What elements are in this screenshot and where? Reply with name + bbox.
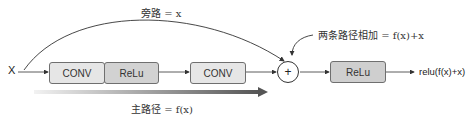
- skip-path-label: 旁路 = x: [141, 5, 181, 20]
- relu-block-2-label: ReLu: [346, 67, 370, 78]
- conv-block-2-label: CONV: [204, 68, 233, 79]
- relu-block-1: ReLu: [104, 62, 159, 84]
- conv-block-1-label: CONV: [63, 68, 92, 79]
- sum-callout-arrow: [292, 35, 313, 55]
- output-label: relu(f(x)+x): [419, 66, 465, 77]
- conv-block-1: CONV: [49, 62, 105, 84]
- conv-block-2: CONV: [190, 62, 246, 84]
- diagram-connectors: [0, 0, 473, 117]
- sum-label: 两条路径相加 = f(x)+x: [318, 27, 424, 42]
- relu-block-1-label: ReLu: [120, 68, 144, 79]
- main-path-gradient-bar: [34, 90, 260, 94]
- plus-icon: +: [284, 65, 291, 79]
- main-path-label: 主路径 = f(x): [131, 101, 193, 116]
- sum-node: +: [277, 61, 299, 83]
- input-label: X: [8, 64, 15, 76]
- main-path-arrowhead: [258, 87, 268, 97]
- relu-block-2: ReLu: [330, 61, 386, 83]
